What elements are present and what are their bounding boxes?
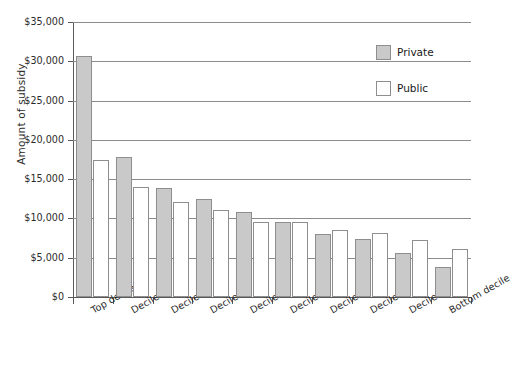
y-tick-label: $20,000 [0,134,64,145]
y-tick-label: $35,000 [0,16,64,27]
bar-private-6 [315,234,331,297]
bar-public-4 [253,222,269,297]
bar-private-5 [275,222,291,297]
legend-label: Private [397,46,434,58]
y-tick-label: $10,000 [0,212,64,223]
legend-swatch-private [376,45,391,60]
bar-public-2 [173,202,189,297]
bar-public-9 [452,249,468,297]
y-tick-label: $25,000 [0,95,64,106]
bar-public-5 [292,222,308,297]
bar-private-9 [435,267,451,297]
bar-private-3 [196,199,212,297]
bar-private-4 [236,212,252,297]
bar-public-6 [332,230,348,297]
legend-item-public: Public [376,79,476,97]
y-tick-label: $15,000 [0,173,64,184]
bar-private-7 [355,239,371,297]
chart-legend: PrivatePublic [376,43,476,115]
bar-private-1 [116,157,132,297]
legend-item-private: Private [376,43,476,61]
y-tick-label: $30,000 [0,55,64,66]
bar-public-0 [93,160,109,297]
bar-public-7 [372,233,388,297]
bar-public-3 [213,210,229,297]
bar-private-8 [395,253,411,297]
bar-public-1 [133,187,149,297]
y-tick-label: $0 [0,291,64,302]
bar-public-8 [412,240,428,297]
bar-private-0 [76,56,92,297]
x-tick-mark [73,297,74,304]
bar-private-2 [156,188,172,297]
y-tick-label: $5,000 [0,252,64,263]
legend-swatch-public [376,81,391,96]
legend-label: Public [397,82,428,94]
